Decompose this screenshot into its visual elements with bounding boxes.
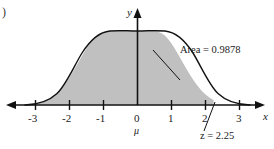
- x-axis-label: x: [263, 111, 268, 122]
- x-tick-label-2: 2: [202, 113, 208, 124]
- area-annotation-label: Area = 0.9878: [180, 45, 240, 56]
- x-tick-label-neg2: -2: [62, 113, 71, 124]
- figure-corner-marker: ): [2, 6, 6, 18]
- x-tick-label-neg1: -1: [96, 113, 105, 124]
- x-tick-label-neg3: -3: [28, 113, 37, 124]
- mean-symbol-label: μ: [134, 126, 139, 136]
- x-axis-right-arrow: [255, 101, 265, 109]
- x-tick-label-3: 3: [236, 113, 242, 124]
- z-value-annotation-label: z = 2.25: [200, 131, 234, 142]
- x-axis-left-arrow: [6, 101, 16, 109]
- x-tick-label-0: 0: [134, 113, 140, 124]
- y-axis-label: y: [127, 7, 132, 18]
- y-axis-top-arrow: [134, 8, 142, 18]
- x-tick-label-1: 1: [168, 113, 174, 124]
